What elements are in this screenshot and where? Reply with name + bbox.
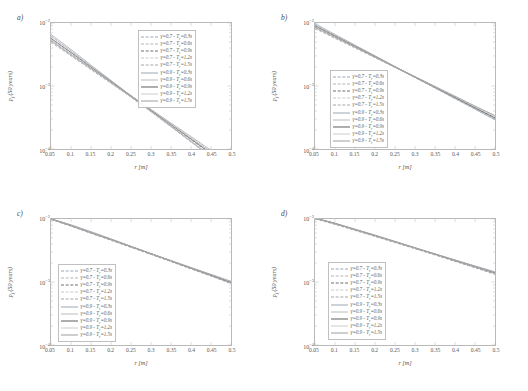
legend-line-swatch [333,80,350,87]
y-tick-label: 10−3 [303,82,314,90]
legend-a[interactable]: γ=0.7 - Tr=0.3sγ=0.7 - Tr=0.6sγ=0.7 - Tr… [138,30,196,108]
legend-line-swatch [61,274,78,281]
legend-line-swatch [141,91,158,98]
x-tick-label: 0.45 [471,151,481,157]
legend-line-swatch [333,109,350,116]
legend-line-swatch [141,55,158,62]
x-tick-label: 0.15 [350,347,360,353]
x-tick-label: 0.3 [412,151,419,157]
legend-line-swatch [141,83,158,90]
figure-four-panel-log-plots: a)pf (50 years)10−210−310−40.050.10.150.… [0,0,528,391]
legend-line-swatch [333,116,350,123]
legend-line-swatch [61,281,78,288]
legend-line-swatch [333,87,350,94]
y-axis-label-a: pf (50 years) [4,22,18,150]
legend-line-swatch [61,325,78,332]
legend-item[interactable]: γ=0.9 - Tr=1.5s [333,138,384,145]
legend-line-swatch [331,330,348,337]
y-tick-label: 10−3 [39,278,50,286]
x-tick-label: 0.15 [86,347,96,353]
legend-label: γ=0.9 - Tr=1.5s [81,331,112,339]
legend-line-swatch [141,69,158,76]
y-axis-label-b: pf (50 years) [268,22,282,150]
x-tick-label: 0.5 [493,347,500,353]
y-axis-label-c: pf (50 years) [4,218,18,346]
y-tick-label: 10−3 [39,82,50,90]
legend-line-swatch [331,294,348,301]
legend-item[interactable]: γ=0.9 - Tr=1.5s [141,98,192,105]
x-tick-label: 0.5 [229,347,236,353]
legend-b[interactable]: γ=0.7 - Tr=0.3sγ=0.7 - Tr=0.6sγ=0.7 - Tr… [330,70,388,148]
legend-d[interactable]: γ=0.7 - Tr=0.3sγ=0.7 - Tr=0.6sγ=0.7 - Tr… [328,262,386,340]
x-axis-label-a: r [m] [50,163,232,170]
legend-line-swatch [333,131,350,138]
x-tick-label: 0.2 [371,151,378,157]
x-tick-labels-c: 0.050.10.150.20.250.30.350.40.450.5 [50,347,232,359]
x-tick-label: 0.15 [350,151,360,157]
y-tick-labels-d: 10−210−310−4 [288,218,314,346]
legend-line-swatch [141,76,158,83]
x-tick-label: 0.4 [452,347,459,353]
legend-item[interactable]: γ=0.9 - Tr=1.5s [61,332,112,339]
legend-line-swatch [331,308,348,315]
legend-line-swatch [141,33,158,40]
x-axis-label-c: r [m] [50,359,232,366]
x-tick-label: 0.3 [148,151,155,157]
x-tick-label: 0.15 [86,151,96,157]
y-tick-label: 10−2 [303,214,314,222]
x-axis-label-d: r [m] [314,359,496,366]
legend-line-swatch [331,265,348,272]
legend-line-swatch [333,95,350,102]
legend-line-swatch [61,303,78,310]
panel-label-d: d) [281,209,287,218]
x-tick-label: 0.3 [148,347,155,353]
legend-line-swatch [331,287,348,294]
x-tick-labels-d: 0.050.10.150.20.250.30.350.40.450.5 [314,347,496,359]
legend-line-swatch [141,98,158,105]
panel-label-a: a) [17,13,23,22]
x-tick-label: 0.05 [45,151,55,157]
legend-line-swatch [331,315,348,322]
x-tick-label: 0.45 [207,151,217,157]
legend-line-swatch [141,62,158,69]
y-tick-label: 10−2 [39,214,50,222]
panel-a: a)pf (50 years)10−210−310−40.050.10.150.… [0,0,264,195]
legend-line-swatch [331,279,348,286]
legend-c[interactable]: γ=0.7 - Tr=0.3sγ=0.7 - Tr=0.6sγ=0.7 - Tr… [58,264,116,342]
legend-line-swatch [331,323,348,330]
x-tick-label: 0.25 [390,347,400,353]
legend-label: γ=0.9 - Tr=1.5s [161,97,192,105]
x-tick-labels-a: 0.050.10.150.20.250.30.350.40.450.5 [50,151,232,163]
x-tick-label: 0.35 [166,347,176,353]
x-tick-label: 0.5 [229,151,236,157]
legend-item[interactable]: γ=0.9 - Tr=1.5s [331,330,382,337]
x-tick-label: 0.1 [331,347,338,353]
x-tick-label: 0.4 [452,151,459,157]
y-tick-label: 10−3 [303,278,314,286]
legend-label: γ=0.9 - Tr=1.5s [353,137,384,145]
legend-line-swatch [61,332,78,339]
legend-line-swatch [61,267,78,274]
y-tick-label: 10−2 [39,18,50,26]
legend-line-swatch [61,296,78,303]
legend-line-swatch [61,289,78,296]
x-tick-label: 0.05 [309,151,319,157]
legend-line-swatch [141,40,158,47]
x-tick-label: 0.3 [412,347,419,353]
x-tick-label: 0.1 [67,151,74,157]
legend-line-swatch [333,138,350,145]
x-tick-label: 0.35 [430,151,440,157]
legend-line-swatch [333,73,350,80]
x-tick-label: 0.2 [107,347,114,353]
x-tick-labels-b: 0.050.10.150.20.250.30.350.40.450.5 [314,151,496,163]
legend-line-swatch [141,47,158,54]
x-tick-label: 0.35 [430,347,440,353]
x-tick-label: 0.35 [166,151,176,157]
x-tick-label: 0.25 [390,151,400,157]
y-tick-labels-c: 10−210−310−4 [24,218,50,346]
panel-b: b)pf (50 years)10−210−310−40.050.10.150.… [264,0,528,195]
panel-label-c: c) [17,209,23,218]
legend-line-swatch [61,310,78,317]
x-tick-label: 0.45 [207,347,217,353]
x-tick-label: 0.2 [107,151,114,157]
